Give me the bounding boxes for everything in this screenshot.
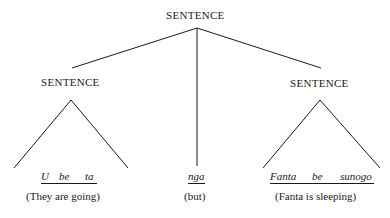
root-node-label: SENTENCE [166, 9, 225, 21]
middle-leaf-word: nga [188, 170, 205, 184]
word-fanta: Fanta [270, 170, 312, 182]
middle-gloss: (but) [184, 190, 205, 202]
edge-root-left [72, 28, 197, 68]
word-sunogo: sunogo [340, 170, 372, 182]
right-gloss: (Fanta is sleeping) [275, 190, 356, 202]
left-node-label: SENTENCE [41, 76, 100, 88]
triangle-left-left-edge [14, 100, 71, 168]
word-be: be [59, 170, 85, 182]
triangle-left-right-edge [71, 100, 128, 168]
triangle-right-left-edge [263, 100, 320, 168]
word-be: be [312, 170, 340, 182]
edge-root-right [197, 28, 321, 68]
left-gloss: (They are going) [26, 190, 100, 202]
triangle-right-right-edge [320, 100, 380, 168]
right-node-label: SENTENCE [290, 77, 349, 89]
word-ta: ta [85, 170, 94, 182]
left-leaf-words: Ubeta [41, 170, 97, 184]
right-leaf-words: Fantabesunogo [270, 170, 374, 184]
tree-edges [0, 0, 390, 218]
word-u: U [41, 170, 59, 182]
